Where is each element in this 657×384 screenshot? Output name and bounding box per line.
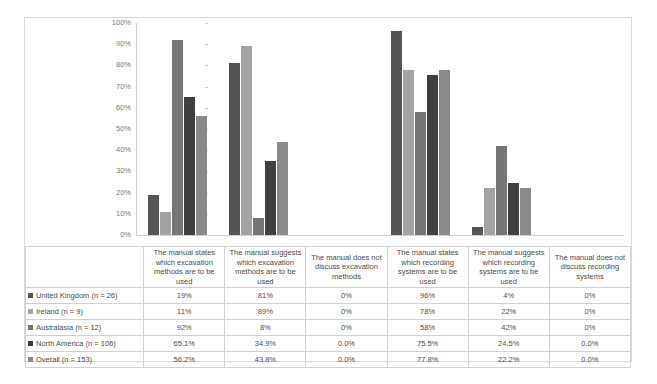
table-cell-value: 34.9%: [225, 336, 306, 352]
table-cell-value: 75.5%: [387, 336, 468, 352]
y-axis-tick-label: 80%: [97, 62, 131, 70]
table-row: Australasia (n = 12)92%8%0%58%42%0%: [26, 320, 631, 336]
data-table: The manual states which excavation metho…: [25, 246, 631, 368]
table-cell-value: 8%: [225, 320, 306, 336]
bar: [241, 46, 252, 235]
bar: [229, 63, 240, 235]
y-axis-tick-label: 0%: [97, 231, 131, 239]
legend-item: North America (n = 106): [26, 336, 144, 352]
bar: [496, 146, 507, 235]
bar-group: [543, 23, 624, 235]
table-column-header: The manual does not discuss recording sy…: [549, 247, 630, 288]
legend-item-label: North America (n = 106): [36, 339, 116, 348]
table-cell-value: 78%: [387, 304, 468, 320]
bar-group: [137, 23, 218, 235]
table-cell-value: 22.2%: [468, 352, 549, 368]
legend-item: United Kingdom (n = 26): [26, 288, 144, 304]
table-cell-value: 0.0%: [306, 336, 387, 352]
table-cell-value: 65.1%: [144, 336, 225, 352]
table-column-header: The manual states which excavation metho…: [144, 247, 225, 288]
bar: [427, 75, 438, 235]
table-cell-value: 0.0%: [549, 336, 630, 352]
table-cell-value: 0%: [306, 320, 387, 336]
y-axis-tick-label: 60%: [97, 104, 131, 112]
legend-swatch-icon: [28, 325, 33, 330]
y-axis-tick-label: 70%: [97, 83, 131, 91]
bar: [391, 31, 402, 235]
bar: [472, 227, 483, 235]
table-cell-value: 81%: [225, 288, 306, 304]
table-cell-value: 19%: [144, 288, 225, 304]
table-cell-value: 0%: [306, 288, 387, 304]
table-column-header: The manual states which recording system…: [387, 247, 468, 288]
bar: [196, 116, 207, 235]
legend-swatch-icon: [28, 341, 33, 346]
bar-group: [299, 23, 380, 235]
bar-group: [381, 23, 462, 235]
bar: [148, 195, 159, 235]
bar: [415, 112, 426, 235]
table-cell-value: 0%: [306, 304, 387, 320]
bar: [277, 142, 288, 235]
table-cell-value: 56.2%: [144, 352, 225, 368]
bar: [172, 40, 183, 235]
chart-figure: 100%90%80%70%60%50%40%30%20%10%0% The ma…: [24, 17, 632, 362]
legend-item: Ireland (n = 9): [26, 304, 144, 320]
legend-item: Overall (n = 153): [26, 352, 144, 368]
table-cell-value: 77.8%: [387, 352, 468, 368]
table-cell-value: 24.5%: [468, 336, 549, 352]
bar: [520, 188, 531, 235]
table-cell-value: 11%: [144, 304, 225, 320]
table-cell-value: 0%: [549, 304, 630, 320]
table-header-row: The manual states which excavation metho…: [26, 247, 631, 288]
table-cell-value: 0.0%: [549, 352, 630, 368]
table-cell-value: 0.0%: [306, 352, 387, 368]
legend-swatch-icon: [28, 293, 33, 298]
table-cell-value: 22%: [468, 304, 549, 320]
legend-swatch-icon: [28, 357, 33, 362]
table-cell-value: 0%: [549, 288, 630, 304]
table-row: Overall (n = 153)56.2%43.8%0.0%77.8%22.2…: [26, 352, 631, 368]
bar-group: [462, 23, 543, 235]
table-cell-value: 58%: [387, 320, 468, 336]
y-axis-tick-label: 90%: [97, 40, 131, 48]
table-row: North America (n = 106)65.1%34.9%0.0%75.…: [26, 336, 631, 352]
bar: [184, 97, 195, 235]
bar: [484, 188, 495, 235]
legend-swatch-icon: [28, 309, 33, 314]
table-cell-value: 96%: [387, 288, 468, 304]
x-axis-line: [136, 235, 624, 236]
legend-item-label: Overall (n = 153): [36, 355, 92, 364]
bar: [403, 70, 414, 235]
y-axis-tick-label: 40%: [97, 146, 131, 154]
table-cell-value: 4%: [468, 288, 549, 304]
table-cell-value: 42%: [468, 320, 549, 336]
bar: [160, 212, 171, 235]
table-row: United Kingdom (n = 26)19%81%0%96%4%0%: [26, 288, 631, 304]
table-column-header: The manual suggests which excavation met…: [225, 247, 306, 288]
legend-item-label: Ireland (n = 9): [36, 307, 83, 316]
table-cell-value: 0%: [549, 320, 630, 336]
legend-item-label: Australasia (n = 12): [36, 323, 101, 332]
bar: [265, 161, 276, 235]
y-axis-tick-label: 100%: [97, 19, 131, 27]
table-cell-value: 43.8%: [225, 352, 306, 368]
legend-item-label: United Kingdom (n = 26): [36, 291, 118, 300]
y-axis-tick-label: 10%: [97, 210, 131, 218]
table-corner-cell: [26, 247, 144, 288]
plot-area: 100%90%80%70%60%50%40%30%20%10%0%: [25, 18, 631, 246]
y-axis-tick-label: 50%: [97, 125, 131, 133]
y-axis-tick-label: 30%: [97, 168, 131, 176]
table-cell-value: 92%: [144, 320, 225, 336]
bars-container: [137, 23, 624, 235]
data-table-wrapper: The manual states which excavation metho…: [25, 246, 631, 361]
bar: [439, 70, 450, 235]
y-axis-tick-label: 20%: [97, 189, 131, 197]
bar-group: [218, 23, 299, 235]
bar: [253, 218, 264, 235]
y-axis-tick-labels: 100%90%80%70%60%50%40%30%20%10%0%: [97, 23, 131, 235]
table-column-header: The manual suggests which recording syst…: [468, 247, 549, 288]
table-row: Ireland (n = 9)11%89%0%78%22%0%: [26, 304, 631, 320]
legend-item: Australasia (n = 12): [26, 320, 144, 336]
table-cell-value: 89%: [225, 304, 306, 320]
